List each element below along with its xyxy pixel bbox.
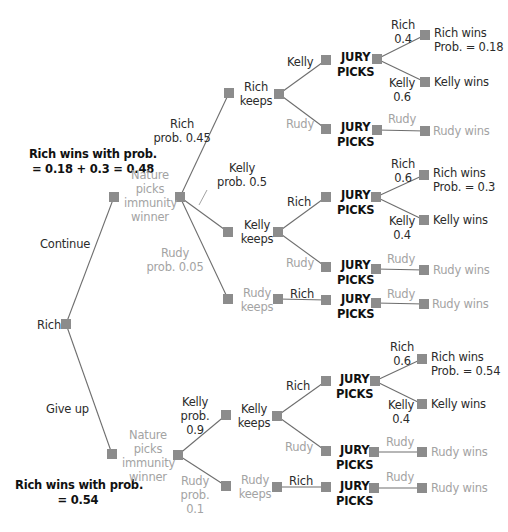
- move-name: Rudy: [178, 474, 212, 488]
- jury-node: [321, 192, 331, 202]
- jury-line2: PICKS: [336, 494, 373, 509]
- kelly-keeps-decision-node: [273, 227, 283, 237]
- edge-give-up: [66, 324, 112, 454]
- nature-move-rich-name: Rich: [152, 117, 212, 131]
- move-name: Kelly: [386, 76, 418, 90]
- move-prob-label: prob.: [178, 488, 212, 502]
- jury6-move-kelly: Kelly 0.4: [385, 398, 417, 426]
- jury-node: [321, 482, 331, 492]
- kelly-keeps-label: Kelly keeps: [240, 218, 274, 246]
- outcome-label: Rich wins: [431, 350, 500, 364]
- kelly-keeps-node: [223, 227, 233, 237]
- jury-node: [321, 376, 331, 386]
- edge-nature-kelly: [180, 197, 228, 232]
- move-prob: 0.4: [385, 412, 417, 426]
- kk2-move-rudy: Rudy: [285, 440, 313, 454]
- outcome-node: [417, 354, 427, 364]
- jury-picks-1: JURY PICKS: [337, 50, 374, 80]
- outcome-rich-wins-1: Rich wins Prob. = 0.18: [434, 26, 503, 54]
- outcome-rudy-wins-3: Rudy wins: [432, 297, 489, 311]
- move-prob: 0.6: [386, 90, 418, 104]
- nature-move-kelly-prob: prob. 0.5: [212, 175, 272, 189]
- move-prob: 0.4: [386, 228, 418, 242]
- outcome-label: Rich wins: [433, 166, 495, 180]
- move-name: Rich: [387, 340, 417, 354]
- nature-move-rich-prob: prob. 0.45: [152, 131, 212, 145]
- move-name: Kelly: [178, 395, 212, 409]
- outcome-node: [420, 126, 430, 136]
- edge-jury2-rudy: [377, 130, 425, 131]
- edge-jury5-rudy: [376, 303, 424, 304]
- kk-move-rich: Rich: [287, 195, 311, 209]
- give-up-node: [107, 449, 117, 459]
- move-name: Rich: [388, 18, 418, 32]
- edge-continue: [66, 197, 114, 324]
- move-name: Rich: [388, 157, 418, 171]
- move-prob: 0.4: [388, 32, 418, 46]
- jury-line1: JURY: [337, 120, 374, 135]
- jury-picks-5: JURY PICKS: [337, 292, 374, 322]
- jury-line1: JURY: [336, 372, 373, 387]
- jury-line2: PICKS: [337, 307, 374, 322]
- move-prob: 0.9: [178, 423, 212, 437]
- rich-keeps-line2: keeps: [238, 94, 274, 108]
- outcome-rudy-wins-1: Rudy wins: [433, 124, 490, 138]
- jury-line1: JURY: [337, 292, 374, 307]
- outcome-prob: Prob. = 0.3: [433, 180, 495, 194]
- root-node: [61, 319, 71, 329]
- jury2-move-rudy: Rudy: [388, 112, 416, 126]
- jury-picks-3: JURY PICKS: [337, 188, 374, 218]
- nature-line3: immunity: [122, 456, 174, 470]
- continue-move-label: Continue: [40, 237, 90, 251]
- rudy-keeps-decision-node: [273, 294, 283, 304]
- nature-line1: Nature: [124, 168, 176, 182]
- edge-jury4-rudy: [376, 269, 424, 270]
- jury-line1: JURY: [337, 188, 374, 203]
- kelly-keeps-node: [221, 410, 231, 420]
- rudy-keeps-node: [221, 481, 231, 491]
- outcome-rich-wins-2: Rich wins Prob. = 0.3: [433, 166, 495, 194]
- nature-line3: immunity: [124, 196, 176, 210]
- outcome-node: [419, 170, 429, 180]
- nature-line4: winner: [122, 470, 174, 484]
- nature-move-rudy-prob: prob. 0.05: [145, 260, 205, 274]
- outcome-rich-wins-3: Rich wins Prob. = 0.54: [431, 350, 500, 378]
- jury-node: [321, 295, 331, 305]
- jury3-move-kelly: Kelly 0.4: [386, 214, 418, 242]
- kelly-keeps-line2: keeps: [237, 416, 271, 430]
- rk-move-kelly: Kelly: [287, 55, 313, 69]
- jury-node: [321, 446, 331, 456]
- nature-node-label-bottom: Nature picks immunity winner: [122, 428, 174, 484]
- nature-move-kelly: Kelly prob. 0.5: [212, 161, 272, 189]
- move-prob-label: prob.: [178, 409, 212, 423]
- outcome-prob: Prob. = 0.18: [434, 40, 503, 54]
- nature2-move-kelly: Kelly prob. 0.9: [178, 395, 212, 437]
- rudy-keeps-line1: Rudy: [238, 473, 272, 487]
- give-up-summary-line2: = 0.54: [15, 493, 141, 508]
- jury6-move-rich: Rich 0.6: [387, 340, 417, 368]
- nature-move-rich: Rich prob. 0.45: [152, 117, 212, 145]
- outcome-rudy-wins-5: Rudy wins: [431, 481, 488, 495]
- outcome-node: [417, 483, 427, 493]
- root-label: Rich: [37, 318, 61, 332]
- rudy-keeps-line1: Rudy: [240, 286, 274, 300]
- jury-node: [321, 124, 331, 134]
- rudy-keeps-decision-node: [272, 482, 282, 492]
- jury7-move-rudy: Rudy: [386, 435, 414, 449]
- jury3-move-rich: Rich 0.6: [388, 157, 418, 185]
- rudy-keeps-label-2: Rudy keeps: [238, 473, 272, 501]
- rdk-move-rich: Rich: [290, 287, 314, 301]
- rudy-keeps-node: [223, 294, 233, 304]
- jury-line1: JURY: [337, 50, 374, 65]
- rich-keeps-decision-node: [274, 89, 284, 99]
- kelly-keeps-line1: Kelly: [237, 402, 271, 416]
- move-prob: 0.6: [387, 354, 417, 368]
- jury-picks-6: JURY PICKS: [336, 372, 373, 402]
- rich-keeps-node: [224, 88, 234, 98]
- move-prob: 0.6: [388, 171, 418, 185]
- nature-line2: picks: [122, 442, 174, 456]
- rudy-keeps-line2: keeps: [238, 487, 272, 501]
- outcome-node: [417, 447, 427, 457]
- rk-move-rudy: Rudy: [286, 117, 314, 131]
- nature-line4: winner: [124, 210, 176, 224]
